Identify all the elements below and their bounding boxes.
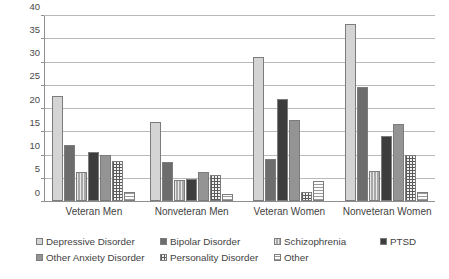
legend-item-personality-disorder: Personality Disorder [160,252,274,263]
bar-group-veteran-men [45,16,143,201]
legend-swatch-depressive-icon [36,238,43,245]
legend-swatch-bipolar-icon [160,238,167,245]
x-axis-category-labels: Veteran Men Nonveteran Men Veteran Women… [45,206,436,217]
bar-chart: 0510152025303540 Veteran Men Nonveteran … [0,0,449,279]
bar-groups [45,16,435,201]
bar-nonveteran-women-other-anxiety-disorder[interactable] [393,124,404,201]
y-axis-tick-label-25: 25 [14,72,40,82]
bar-veteran-women-depressive-disorder[interactable] [253,57,264,201]
category-label-nonveteran-women: Nonveteran Women [338,206,436,217]
bar-veteran-men-ptsd[interactable] [88,152,99,201]
legend-swatch-personality-icon [160,254,167,261]
x-axis-line [44,201,435,202]
legend-swatch-schizophrenia-icon [274,238,281,245]
bar-nonveteran-men-bipolar-disorder[interactable] [162,162,173,201]
legend-item-schizophrenia: Schizophrenia [274,236,380,247]
y-axis-tick-label-40: 40 [14,2,40,12]
bar-group-veteran-women [240,16,338,201]
y-axis-tick-label-20: 20 [14,95,40,105]
bar-nonveteran-men-personality-disorder[interactable] [210,175,221,202]
bar-veteran-women-bipolar-disorder[interactable] [265,159,276,201]
legend-label-depressive-disorder: Depressive Disorder [46,236,135,247]
legend-row-1: Depressive Disorder Bipolar Disorder Sch… [36,236,436,247]
bar-nonveteran-men-ptsd[interactable] [186,179,197,201]
bar-veteran-men-schizophrenia[interactable] [76,172,87,201]
bar-veteran-women-other[interactable] [313,181,324,201]
y-axis-tick-label-35: 35 [14,25,40,35]
plot-area: 0510152025303540 [44,16,435,202]
legend-swatch-other-icon [274,254,281,261]
bar-veteran-women-personality-disorder[interactable] [301,192,312,201]
bar-nonveteran-men-other-anxiety-disorder[interactable] [198,172,209,201]
bar-nonveteran-women-depressive-disorder[interactable] [345,24,356,201]
bar-veteran-men-other[interactable] [124,192,135,201]
legend-swatch-other-anxiety-icon [36,254,43,261]
y-axis-tick-label-15: 15 [14,118,40,128]
legend-row-2: Other Anxiety Disorder Personality Disor… [36,252,436,263]
bar-nonveteran-women-schizophrenia[interactable] [369,171,380,201]
legend-item-other: Other [274,252,380,263]
bar-veteran-men-other-anxiety-disorder[interactable] [100,155,111,202]
bar-group-nonveteran-women [338,16,436,201]
legend-label-ptsd: PTSD [390,236,416,247]
y-axis-tick-label-0: 0 [14,188,40,198]
category-label-veteran-women: Veteran Women [241,206,339,217]
bar-nonveteran-men-other[interactable] [222,194,233,201]
bar-nonveteran-women-bipolar-disorder[interactable] [357,87,368,201]
y-axis-tick-label-10: 10 [14,141,40,151]
bar-veteran-women-ptsd[interactable] [277,99,288,201]
category-label-veteran-men: Veteran Men [45,206,143,217]
legend-item-ptsd: PTSD [380,236,416,247]
bar-nonveteran-women-personality-disorder[interactable] [405,155,416,202]
legend-label-personality-disorder: Personality Disorder [170,252,258,263]
bar-veteran-women-other-anxiety-disorder[interactable] [289,120,300,201]
y-axis-tick-label-5: 5 [14,165,40,175]
category-label-nonveteran-men: Nonveteran Men [143,206,241,217]
bar-veteran-men-depressive-disorder[interactable] [52,96,63,201]
legend-label-schizophrenia: Schizophrenia [284,236,346,247]
legend-label-other-anxiety-disorder: Other Anxiety Disorder [46,252,145,263]
legend-swatch-ptsd-icon [380,238,387,245]
bar-veteran-men-bipolar-disorder[interactable] [64,145,75,201]
legend-item-other-anxiety-disorder: Other Anxiety Disorder [36,252,160,263]
y-axis-tick-label-30: 30 [14,48,40,58]
bar-nonveteran-men-schizophrenia[interactable] [174,180,185,201]
legend-item-depressive-disorder: Depressive Disorder [36,236,160,247]
chart-legend: Depressive Disorder Bipolar Disorder Sch… [36,236,436,268]
legend-label-other: Other [284,252,309,263]
bar-nonveteran-men-depressive-disorder[interactable] [150,122,161,201]
legend-label-bipolar-disorder: Bipolar Disorder [170,236,240,247]
bar-nonveteran-women-ptsd[interactable] [381,136,392,201]
legend-item-bipolar-disorder: Bipolar Disorder [160,236,274,247]
bar-veteran-men-personality-disorder[interactable] [112,161,123,201]
bar-group-nonveteran-men [143,16,241,201]
bar-nonveteran-women-other[interactable] [417,192,428,201]
